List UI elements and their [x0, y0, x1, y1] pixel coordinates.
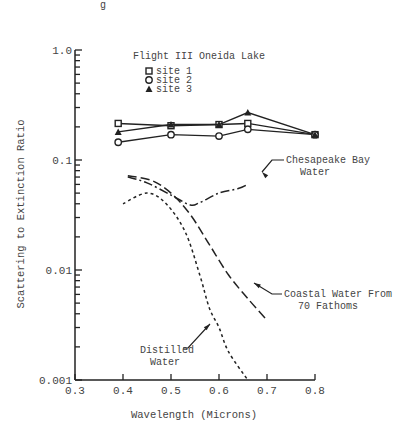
annotation-text: Chesapeake Bay — [286, 155, 370, 166]
square-marker — [146, 68, 152, 74]
annotation-distilled-water: DistilledWater — [140, 324, 210, 368]
x-axis-title: Wavelength (Microns) — [131, 409, 257, 421]
axes — [75, 50, 315, 380]
annotation-text: Coastal Water From — [284, 289, 392, 300]
annotation-text: Water — [150, 357, 180, 368]
circle-marker — [168, 131, 174, 137]
series-layer — [115, 109, 319, 380]
y-axis-title: Scattering to Extinction Ratio — [15, 119, 27, 308]
triangle-marker — [244, 109, 251, 116]
circle-marker — [216, 133, 222, 139]
annotation-text: Water — [300, 167, 330, 178]
chart-title: Flight III Oneida Lake — [133, 51, 265, 62]
series-site-2 — [115, 126, 318, 145]
y-tick-label: 0.1 — [52, 155, 72, 167]
arrowhead-icon — [262, 172, 268, 178]
triangle-marker — [146, 86, 153, 93]
circle-marker — [245, 126, 251, 132]
annotation-arrow — [262, 160, 284, 172]
y-tick-label: 1.0 — [52, 45, 72, 57]
x-tick-label: 0.3 — [65, 385, 85, 397]
chart: g 1.00.10.010.001 0.30.40.50.60.70.8 Sca… — [0, 0, 419, 437]
x-tick-label: 0.4 — [113, 385, 133, 397]
series-line — [128, 176, 267, 320]
x-tick-label: 0.5 — [161, 385, 181, 397]
legend-label: site 3 — [156, 84, 192, 95]
annotation-coastal-water-from-70-fathoms: Coastal Water From70 Fathoms — [254, 283, 392, 312]
annotation-layer: Chesapeake BayWaterCoastal Water From70 … — [140, 155, 392, 368]
y-tick-label: 0.01 — [46, 265, 73, 277]
annotation-chesapeake-bay-water: Chesapeake BayWater — [262, 155, 370, 178]
x-tick-label: 0.6 — [209, 385, 229, 397]
square-marker — [115, 120, 121, 126]
series-line — [128, 177, 248, 205]
series-coastal-water-from-70-fathoms — [128, 176, 267, 320]
annotation-text: Distilled — [140, 345, 194, 356]
x-tick-label: 0.8 — [305, 385, 325, 397]
circle-marker — [146, 77, 152, 83]
x-tick-label: 0.7 — [257, 385, 277, 397]
annotation-text: 70 Fathoms — [298, 301, 358, 312]
legend: site 1site 2site 3 — [146, 66, 193, 95]
circle-marker — [115, 139, 121, 145]
arrowhead-icon — [254, 283, 261, 288]
caption-fragment: g — [100, 0, 106, 11]
x-ticks: 0.30.40.50.60.70.8 — [65, 374, 325, 397]
series-chesapeake-bay-water — [128, 177, 248, 205]
